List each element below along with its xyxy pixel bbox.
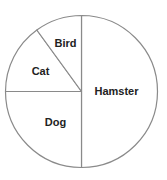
- pie-chart-canvas: HamsterDogCatBird: [0, 0, 167, 180]
- slice-label-cat: Cat: [32, 65, 50, 77]
- pie-slice-dog: [6, 92, 82, 168]
- slice-label-hamster: Hamster: [94, 85, 139, 97]
- pie-chart: HamsterDogCatBird: [0, 0, 167, 180]
- slice-label-bird: Bird: [55, 37, 77, 49]
- slice-label-dog: Dog: [45, 116, 66, 128]
